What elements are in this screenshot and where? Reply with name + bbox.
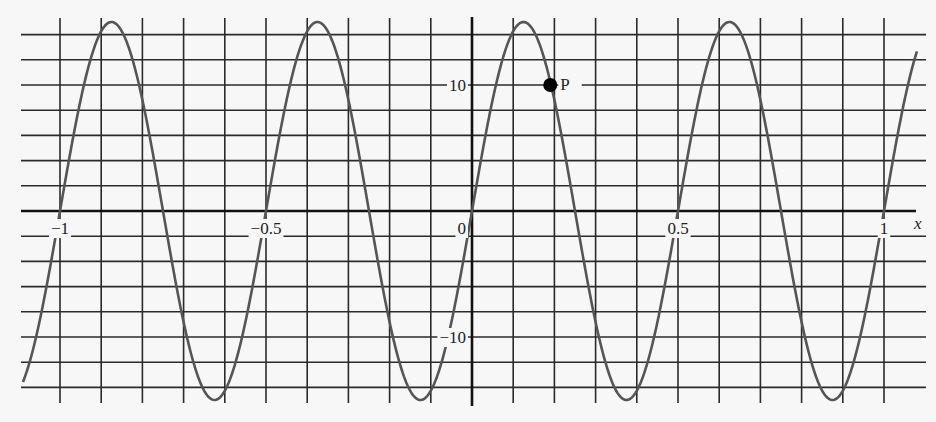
y-tick-label: 10 [449,76,466,95]
x-tick-label: −0.5 [251,219,282,238]
point-p-label: P [560,75,569,94]
x-tick-label: 0 [458,219,467,238]
x-tick-label: −1 [51,219,69,238]
point-p-marker [543,78,557,92]
y-tick-label: −10 [439,328,466,347]
x-tick-label: 0.5 [667,219,688,238]
x-tick-label: 1 [880,219,889,238]
x-axis-label: x [913,214,922,233]
sine-plot: −1−0.500.5110−10 P x [0,0,936,422]
